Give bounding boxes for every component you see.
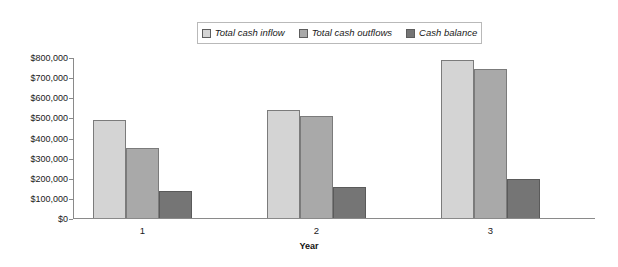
- y-tick-label: $300,000: [30, 154, 68, 164]
- y-axis-line: [73, 58, 74, 219]
- y-tick-mark: [69, 219, 73, 220]
- y-tick-label: $100,000: [30, 194, 68, 204]
- legend-swatch-icon: [299, 29, 308, 38]
- bar-1-series-1: [126, 148, 159, 218]
- chart-legend: Total cash inflow Total cash outflows Ca…: [197, 22, 482, 44]
- bar-1-series-2: [159, 191, 192, 218]
- y-tick-label: $0: [58, 214, 68, 224]
- y-tick-label: $400,000: [30, 134, 68, 144]
- y-tick-mark: [69, 78, 73, 79]
- bar-2-series-2: [333, 187, 366, 218]
- cash-flow-bar-chart: Total cash inflow Total cash outflows Ca…: [0, 0, 618, 267]
- bar-2-series-0: [267, 110, 300, 218]
- bar-3-series-2: [507, 179, 540, 218]
- legend-entry-total-cash-outflows: Total cash outflows: [299, 28, 392, 38]
- bar-3-series-1: [474, 69, 507, 218]
- y-tick-mark: [69, 199, 73, 200]
- legend-label: Total cash inflow: [215, 28, 285, 38]
- y-tick-mark: [69, 159, 73, 160]
- x-axis-line: [73, 218, 595, 219]
- x-tick-label: 3: [488, 225, 493, 236]
- y-tick-label: $200,000: [30, 174, 68, 184]
- y-tick-mark: [69, 98, 73, 99]
- y-tick-mark: [69, 58, 73, 59]
- legend-swatch-icon: [202, 29, 211, 38]
- y-tick-label: $500,000: [30, 113, 68, 123]
- bar-2-series-1: [300, 116, 333, 218]
- legend-label: Cash balance: [419, 28, 477, 38]
- bar-3-series-0: [441, 60, 474, 218]
- y-tick-label: $700,000: [30, 73, 68, 83]
- x-tick-label: 1: [140, 225, 145, 236]
- y-tick-mark: [69, 139, 73, 140]
- legend-entry-total-cash-inflow: Total cash inflow: [202, 28, 285, 38]
- x-tick-label: 2: [314, 225, 319, 236]
- y-tick-mark: [69, 179, 73, 180]
- y-axis-labels: $0$100,000$200,000$300,000$400,000$500,0…: [18, 58, 68, 219]
- legend-label: Total cash outflows: [312, 28, 392, 38]
- y-tick-label: $800,000: [30, 53, 68, 63]
- bar-1-series-0: [93, 120, 126, 218]
- legend-swatch-icon: [406, 29, 415, 38]
- y-tick-label: $600,000: [30, 93, 68, 103]
- y-tick-mark: [69, 118, 73, 119]
- x-axis-title: Year: [0, 241, 618, 251]
- plot-area: [73, 58, 595, 219]
- legend-entry-cash-balance: Cash balance: [406, 28, 477, 38]
